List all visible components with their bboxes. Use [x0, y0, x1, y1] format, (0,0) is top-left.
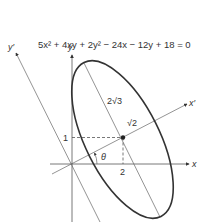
major-axis-length-label: 2√3 [107, 96, 122, 106]
theta-label: θ [101, 152, 106, 162]
major-axis-line [84, 63, 160, 217]
minor-semi-axis-label: √2 [127, 118, 137, 128]
x-tick-2-label: 2 [120, 167, 125, 177]
y-prime-axis-label: y′ [7, 42, 15, 52]
center-point [121, 135, 125, 139]
equation-label: 5x² + 4xy + 2y² − 24x − 12y + 18 = 0 [38, 39, 191, 50]
y-tick-1-label: 1 [63, 133, 68, 143]
x-prime-axis-label: x′ [188, 98, 196, 108]
x-axis-label: x [191, 159, 197, 169]
theta-arc [95, 153, 98, 164]
rotated-ellipse-diagram: 5x² + 4xy + 2y² − 24x − 12y + 18 = 0 y x… [0, 0, 208, 223]
ellipse-curve [51, 46, 194, 223]
y-axis-label: y [67, 42, 73, 52]
